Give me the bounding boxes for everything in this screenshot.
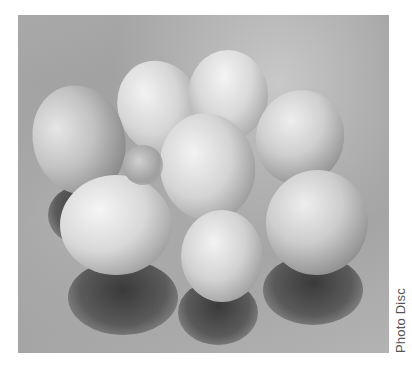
egg (258, 162, 377, 283)
photo-credit: Photo Disc (393, 288, 408, 353)
egg (60, 175, 172, 275)
egg (123, 145, 163, 185)
egg (181, 210, 263, 302)
eggs-photo (18, 15, 389, 353)
